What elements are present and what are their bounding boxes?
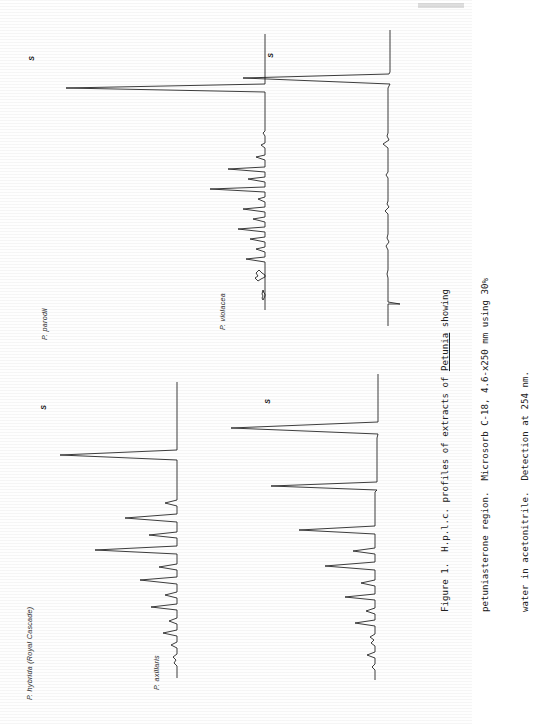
trace-p-parodii: [60, 32, 270, 312]
figure-caption: Figure 1. H.p.l.c. profiles of extracts …: [412, 142, 533, 612]
caption-line-2: petuniasterone region. Microsorb C-18, 4…: [479, 142, 492, 612]
trace-p-violacea: [240, 28, 420, 328]
trace-p-axillaris: [225, 372, 420, 682]
caption-genus-name: Petunia: [440, 333, 450, 371]
species-label-p-violacea: P. violacea: [218, 293, 227, 330]
species-label-p-parodii: P. parodii: [40, 308, 49, 340]
caption-line-1: Figure 1. H.p.l.c. profiles of extracts …: [439, 142, 452, 612]
solvent-marker-p-hybrida: S: [40, 405, 47, 410]
caption-line-3: water in acetonitrile. Detection at 254 …: [519, 142, 532, 612]
scan-edge: [0, 0, 472, 3]
solvent-marker-p-axillaris: S: [264, 399, 271, 404]
caption-line-1-pre: Figure 1. H.p.l.c. profiles of extracts …: [440, 289, 450, 612]
solvent-marker-p-parodii: S: [28, 56, 35, 61]
species-label-p-hybrida: P. hybrida (Royal Cascade): [25, 607, 34, 700]
scan-artifact: [418, 3, 464, 8]
solvent-marker-p-violacea: S: [267, 53, 274, 58]
species-label-p-axillaris: P. axillaris: [152, 655, 161, 690]
